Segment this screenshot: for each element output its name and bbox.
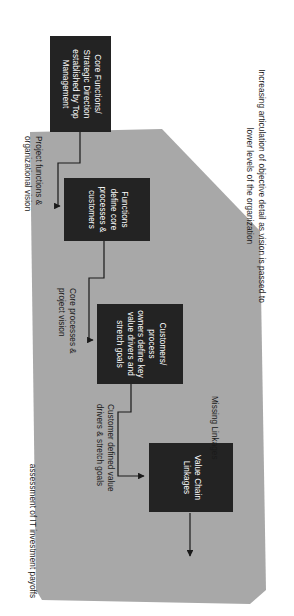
edge-label-core-processes: Core processes & project vision: [56, 288, 78, 368]
node-line: processes &: [96, 186, 107, 232]
node-line: Value Chain: [191, 455, 202, 500]
annotation-missing-linkages: Missing Linkages: [209, 396, 220, 486]
edge-label-line: Core processes &: [68, 288, 77, 354]
node-value-chain-linkages-label: Value Chain Linkages: [180, 455, 202, 500]
edge-label-customer-defined-value: Customer defined value drivers & stretch…: [94, 404, 116, 500]
node-customers-process-owners[interactable]: Customers/ process owners define key val…: [97, 304, 183, 384]
edge-label-line: Project functions &: [34, 136, 43, 205]
annotation-line: Missing Linkages: [210, 396, 219, 460]
connector-customers-to-value-chain: [118, 384, 144, 476]
edge-label-line: drivers & stretch goals: [95, 404, 104, 486]
header-annotation: Increasing articulation of objective det…: [244, 68, 268, 304]
node-line: value drivers and: [124, 307, 135, 381]
node-customers-process-owners-label: Customers/ process owners define key val…: [113, 307, 167, 381]
node-line: owners define key: [135, 307, 146, 381]
node-line: Strategic Direction: [81, 49, 92, 118]
node-line: Linkages: [180, 455, 191, 500]
node-value-chain-linkages[interactable]: Value Chain Linkages: [149, 443, 233, 512]
node-line: established by Top: [70, 49, 81, 118]
edge-label-line: Customer defined value: [106, 404, 115, 492]
node-core-functions-label: Core Functions/ Strategic Direction esta…: [59, 49, 102, 118]
edge-label-line: project vision: [57, 288, 66, 336]
node-line: customers: [85, 186, 96, 232]
node-line: define core: [107, 186, 118, 232]
header-annotation-text: Increasing articulation of objective det…: [245, 69, 267, 303]
node-line: Management: [59, 49, 70, 118]
node-functions-define-label: Functions define core processes & custom…: [85, 186, 128, 232]
outcome-label: assessment of IT investment payoffs: [27, 456, 38, 606]
edge-label-project-functions: Project functions & organizational visio…: [22, 136, 44, 234]
diagram-body: Increasing articulation of objective det…: [0, 0, 294, 616]
outcome-label-text: assessment of IT investment payoffs: [28, 464, 37, 598]
node-functions-define[interactable]: Functions define core processes & custom…: [64, 178, 150, 241]
node-core-functions[interactable]: Core Functions/ Strategic Direction esta…: [50, 36, 111, 132]
node-line: stretch goals: [113, 307, 124, 381]
node-line: Functions: [118, 186, 129, 232]
diagram-canvas: Increasing articulation of objective det…: [0, 0, 294, 616]
node-line: Customers/ process: [145, 307, 167, 381]
node-line: Core Functions/: [91, 49, 102, 118]
edge-label-line: organizational vision: [23, 136, 32, 211]
